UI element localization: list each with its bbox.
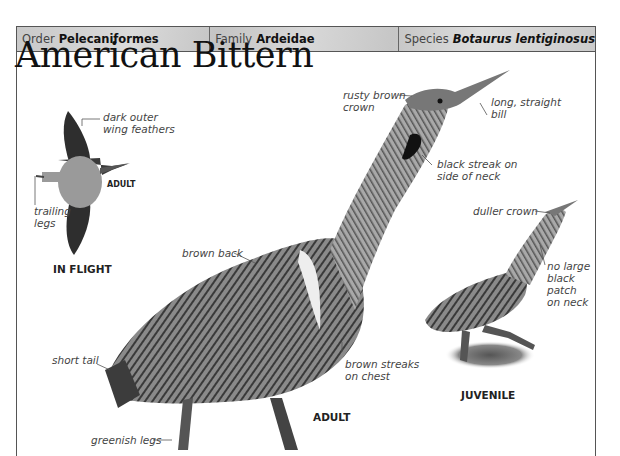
annotation-line: wing feathers xyxy=(103,123,175,135)
annotation-brown-back: brown back xyxy=(182,247,243,259)
annotation-greenish-legs: greenish legs xyxy=(91,434,161,446)
annotation-line: on chest xyxy=(345,370,419,382)
annotation-line: trailing xyxy=(34,205,71,217)
annotation-line: on neck xyxy=(547,296,590,308)
annotation-line: bill xyxy=(491,108,561,120)
annotation-no-large-black-patch: no large black patch on neck xyxy=(547,260,590,308)
annotation-trailing-legs: trailing legs xyxy=(34,205,71,229)
annotation-line: crown xyxy=(343,101,406,113)
annotation-line: patch xyxy=(547,284,590,296)
annotation-duller-crown: duller crown xyxy=(473,205,538,217)
annotation-black-streak-neck: black streak on side of neck xyxy=(437,158,518,182)
annotation-line: no large xyxy=(547,260,590,272)
annotation-line: side of neck xyxy=(437,170,518,182)
annotation-line: legs xyxy=(34,217,71,229)
annotation-line: long, straight xyxy=(491,96,561,108)
annotation-short-tail: short tail xyxy=(52,354,99,366)
annotation-line: rusty brown xyxy=(343,89,406,101)
flight-adult-label: ADULT xyxy=(107,180,136,189)
annotation-long-straight-bill: long, straight bill xyxy=(491,96,561,120)
in-flight-caption: IN FLIGHT xyxy=(53,263,112,275)
adult-caption: ADULT xyxy=(313,411,350,423)
annotation-brown-streaks-chest: brown streaks on chest xyxy=(345,358,419,382)
juvenile-caption: JUVENILE xyxy=(461,389,515,401)
annotation-rusty-brown-crown: rusty brown crown xyxy=(343,89,406,113)
annotation-line: black streak on xyxy=(437,158,518,170)
annotation-line: dark outer xyxy=(103,111,175,123)
annotation-line: black xyxy=(547,272,590,284)
annotation-line: brown streaks xyxy=(345,358,419,370)
annotation-dark-outer-wing: dark outer wing feathers xyxy=(103,111,175,135)
